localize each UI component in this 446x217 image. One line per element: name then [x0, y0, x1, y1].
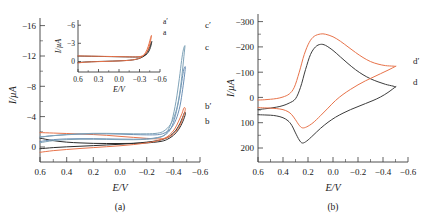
panel-a-xtick-2: 0.2: [88, 167, 99, 177]
inset-ytick-1: −3: [67, 39, 75, 48]
panel-b-xtick-0: 0.6: [252, 167, 264, 177]
inset-xtick-3: −0.3: [133, 75, 147, 84]
panel-a-xtick-5: −0.4: [165, 167, 182, 177]
panel-b-xaxis-title: E/V: [325, 182, 343, 193]
panel-b-ytick-3: 0: [250, 93, 255, 103]
panel-b-curves: [258, 34, 396, 143]
panel-b-ytick-5: 200: [241, 143, 255, 153]
curve-label-b: b: [205, 116, 210, 126]
panel-a-ytick-4: 0: [32, 142, 37, 152]
curve-label-a-prime: a′: [163, 17, 168, 26]
panel-a-xtick-3: 0.0: [114, 167, 126, 177]
panel-a-inset: −6 −3 0 0.6 0.3 0.0 −0.3 −0.6 E/V I: [48, 12, 172, 94]
panel-b-xtick-6: −0.6: [400, 167, 417, 177]
panel-b-xtick-1: 0.4: [277, 167, 289, 177]
panel-a-caption: (a): [115, 202, 126, 213]
curve-d: [258, 44, 396, 143]
panel-a-ytick-0: −16: [22, 21, 37, 31]
panel-a-xtick-4: −0.2: [139, 167, 155, 177]
panel-a-yaxis-title: I/µA: [7, 85, 18, 105]
inset-ytick-0: −6: [67, 21, 75, 30]
panel-b-xtick-3: 0.0: [327, 167, 339, 177]
inset-xtick-1: 0.3: [94, 75, 104, 84]
inset-xtick-0: 0.6: [73, 75, 83, 84]
panel-a: −16 −12 −8 −4 0 0.6 0.4: [0, 0, 223, 217]
figure-container: −16 −12 −8 −4 0 0.6 0.4: [0, 0, 446, 217]
panel-b-ytick-0: −300: [235, 17, 254, 27]
panel-a-curve-labels: c′ c b′ b: [205, 20, 212, 126]
panel-b-ytick-1: −200: [235, 42, 254, 52]
panel-a-ytick-2: −8: [26, 82, 36, 92]
panel-a-xtick-1: 0.4: [61, 167, 73, 177]
curve-label-d: d: [413, 77, 418, 87]
panel-b-plot: −300 −200 −100 0 100 200: [223, 0, 446, 217]
panel-a-xtick-6: −0.6: [192, 167, 209, 177]
curve-b: [40, 112, 185, 149]
panel-b-yaxis-title: I/µA: [225, 78, 236, 98]
panel-a-ytick-1: −12: [22, 51, 36, 61]
panel-b-xtick-4: −0.2: [350, 167, 366, 177]
inset-ytick-2: 0: [71, 57, 75, 66]
curve-label-c: c: [205, 42, 209, 52]
curve-label-b-prime: b′: [205, 101, 212, 111]
curve-b-prime: [40, 108, 185, 153]
panel-b-xtick-2: 0.2: [302, 167, 313, 177]
inset-yaxis-title: I/µA: [54, 39, 63, 54]
panel-b-caption: (b): [327, 202, 338, 213]
panel-a-ytick-3: −4: [26, 112, 36, 122]
panel-b-ytick-4: 100: [241, 118, 255, 128]
curve-label-c-prime: c′: [205, 20, 211, 30]
panel-b-curve-labels: d′ d: [413, 56, 420, 87]
curve-label-d-prime: d′: [413, 56, 420, 66]
panel-a-xtick-0: 0.6: [34, 167, 46, 177]
panel-b: −300 −200 −100 0 100 200: [223, 0, 446, 217]
panel-b-xtick-5: −0.4: [375, 167, 392, 177]
inset-xtick-2: 0.0: [114, 75, 124, 84]
panel-a-xaxis-title: E/V: [112, 182, 130, 193]
panel-a-plot: −16 −12 −8 −4 0 0.6 0.4: [0, 0, 223, 217]
panel-b-ytick-2: −100: [235, 68, 254, 78]
inset-xaxis-title: E/V: [112, 85, 126, 94]
panel-b-axes: −300 −200 −100 0 100 200: [225, 14, 417, 193]
inset-xtick-4: −0.6: [153, 75, 167, 84]
